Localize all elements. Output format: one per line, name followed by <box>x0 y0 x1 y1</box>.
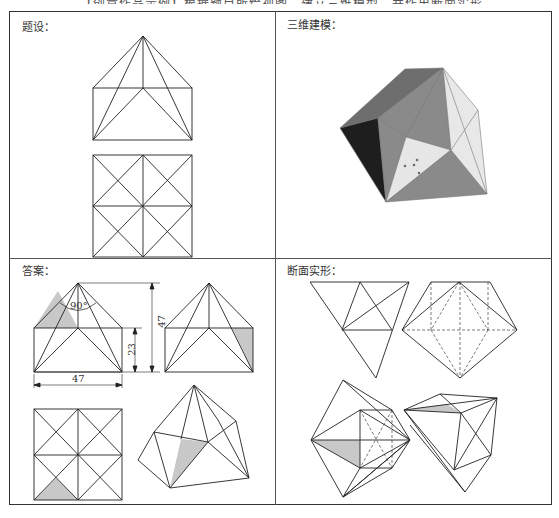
dim-angle: 90° <box>70 300 88 311</box>
section-polyhedron-2 <box>404 394 497 492</box>
drawings <box>0 0 559 518</box>
given-front-view <box>93 36 192 140</box>
model-3d <box>340 68 487 202</box>
answer-isometric <box>138 385 249 488</box>
dim-height-total: 47 <box>156 315 167 328</box>
section-hexagon <box>402 282 517 378</box>
answer-top-view <box>34 409 122 500</box>
given-top-view <box>93 155 192 257</box>
dim-height-box: 23 <box>126 343 137 356</box>
section-polyhedron-1 <box>311 380 410 497</box>
dim-width: 47 <box>72 373 85 384</box>
section-triangle <box>310 282 409 378</box>
answer-front-view-2 <box>165 283 253 372</box>
answer-front-view-1 <box>34 283 160 388</box>
